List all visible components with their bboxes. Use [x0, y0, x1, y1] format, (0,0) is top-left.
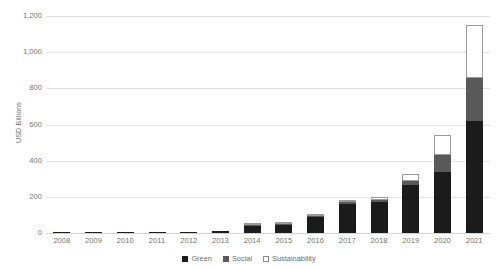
legend-item-social[interactable]: Social — [223, 254, 252, 263]
bar-segment-green[interactable] — [307, 217, 324, 233]
legend-item-green[interactable]: Green — [182, 254, 212, 263]
legend-swatch-sustainability-icon — [263, 256, 269, 262]
gridline-0 — [46, 233, 490, 234]
bar-segment-green[interactable] — [212, 231, 229, 233]
bars-layer — [46, 16, 490, 233]
x-tick-label-2016: 2016 — [300, 236, 332, 245]
bar-segment-green[interactable] — [434, 172, 451, 233]
y-tick-label-600: 600 — [0, 120, 42, 129]
bar-segment-green[interactable] — [180, 232, 197, 233]
bar-group[interactable] — [307, 214, 324, 233]
legend-swatch-social-icon — [223, 256, 229, 262]
legend-label-sustainability: Sustainability — [272, 254, 316, 263]
chart-legend: GreenSocialSustainability — [0, 254, 498, 263]
bar-group[interactable] — [275, 222, 292, 234]
bar-segment-green[interactable] — [275, 225, 292, 233]
bar-group[interactable] — [371, 197, 388, 233]
bar-segment-green[interactable] — [244, 226, 261, 233]
legend-swatch-green-icon — [182, 256, 188, 262]
bar-group[interactable] — [402, 174, 419, 233]
x-tick-label-2017: 2017 — [331, 236, 363, 245]
x-tick-label-2020: 2020 — [427, 236, 459, 245]
y-tick-label-200: 200 — [0, 192, 42, 201]
x-tick-label-2009: 2009 — [78, 236, 110, 245]
bar-segment-green[interactable] — [117, 232, 134, 233]
y-tick-label-1000: 1,000 — [0, 47, 42, 56]
bar-segment-social[interactable] — [434, 155, 451, 172]
bar-segment-green[interactable] — [339, 204, 356, 233]
bar-segment-sustainability[interactable] — [466, 25, 483, 78]
bar-group[interactable] — [434, 135, 451, 233]
bar-segment-social[interactable] — [466, 78, 483, 120]
bar-group[interactable] — [244, 223, 261, 233]
x-tick-label-2012: 2012 — [173, 236, 205, 245]
bar-group[interactable] — [149, 232, 166, 233]
legend-label-social: Social — [232, 254, 252, 263]
bar-segment-sustainability[interactable] — [434, 135, 451, 155]
x-tick-label-2013: 2013 — [205, 236, 237, 245]
x-axis-ticks: 2008200920102011201220132014201520162017… — [46, 236, 490, 250]
x-tick-label-2018: 2018 — [363, 236, 395, 245]
x-tick-label-2014: 2014 — [236, 236, 268, 245]
bar-segment-green[interactable] — [402, 185, 419, 233]
bar-group[interactable] — [339, 200, 356, 233]
bar-group[interactable] — [212, 231, 229, 233]
bar-segment-sustainability[interactable] — [402, 174, 419, 181]
y-tick-label-800: 800 — [0, 83, 42, 92]
x-tick-label-2019: 2019 — [395, 236, 427, 245]
x-tick-label-2010: 2010 — [109, 236, 141, 245]
bar-group[interactable] — [117, 232, 134, 233]
bar-segment-green[interactable] — [85, 232, 102, 233]
y-tick-label-1200: 1,200 — [0, 11, 42, 20]
stacked-bar-chart: USD Billions 02004006008001,0001,200 200… — [0, 0, 498, 270]
x-tick-label-2011: 2011 — [141, 236, 173, 245]
bar-group[interactable] — [85, 232, 102, 233]
y-tick-label-0: 0 — [0, 228, 42, 237]
x-tick-label-2008: 2008 — [46, 236, 78, 245]
bar-segment-green[interactable] — [149, 232, 166, 233]
legend-item-sustainability[interactable]: Sustainability — [263, 254, 316, 263]
bar-segment-green[interactable] — [371, 202, 388, 233]
y-tick-label-400: 400 — [0, 156, 42, 165]
legend-label-green: Green — [191, 254, 212, 263]
bar-group[interactable] — [466, 25, 483, 233]
x-tick-label-2015: 2015 — [268, 236, 300, 245]
bar-group[interactable] — [180, 232, 197, 233]
bar-group[interactable] — [53, 232, 70, 233]
y-axis-ticks: 02004006008001,0001,200 — [0, 0, 42, 270]
bar-segment-green[interactable] — [466, 121, 483, 233]
x-tick-label-2021: 2021 — [458, 236, 490, 245]
bar-segment-green[interactable] — [53, 232, 70, 233]
